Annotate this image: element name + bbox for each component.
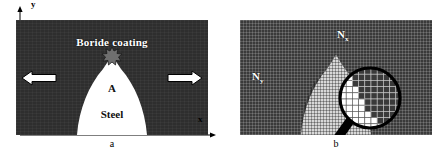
mesh-cell	[371, 99, 377, 105]
mesh-cell	[383, 80, 389, 86]
axis-x-arrow-icon	[210, 132, 216, 137]
mesh-cell	[352, 74, 358, 80]
mesh-cell	[396, 118, 402, 124]
mesh-cell	[383, 93, 389, 99]
mesh-cell	[371, 74, 377, 80]
star-defect-icon	[101, 46, 123, 66]
axis-y-arrow-icon	[17, 6, 22, 12]
panel-b-caption: b	[224, 138, 448, 149]
mesh-cell	[396, 74, 402, 80]
mesh-cell	[359, 93, 365, 99]
mesh-cell	[359, 111, 365, 117]
mesh-cell	[371, 111, 377, 117]
mesh-cell	[377, 118, 383, 124]
mesh-cell	[377, 111, 383, 117]
mesh-cell	[346, 93, 352, 99]
mesh-cell	[365, 74, 371, 80]
mesh-cell	[359, 74, 365, 80]
mesh-cell	[390, 124, 396, 130]
mesh-cell	[390, 105, 396, 111]
mesh-cell	[396, 68, 402, 74]
mesh-cell	[371, 80, 377, 86]
mesh-cell	[359, 118, 365, 124]
mesh-cell	[352, 80, 358, 86]
mesh-cell	[377, 74, 383, 80]
mesh-cell	[365, 111, 371, 117]
mesh-cell	[346, 99, 352, 105]
arrow-left-icon	[21, 69, 57, 87]
mesh-cell	[365, 118, 371, 124]
mesh-cell	[377, 93, 383, 99]
mesh-cell	[359, 80, 365, 86]
mesh-cell	[390, 99, 396, 105]
panel-a-caption: a	[0, 138, 224, 149]
panel-a: y Boride coating A Steel	[0, 0, 224, 163]
mesh-cell	[371, 118, 377, 124]
magnifier-icon	[326, 60, 418, 135]
mesh-cell	[359, 105, 365, 111]
mesh-cell	[352, 111, 358, 117]
panel-b: Nx Ny b	[224, 0, 448, 163]
mesh-cell	[390, 87, 396, 93]
mesh-cell	[359, 87, 365, 93]
mesh-cell	[383, 105, 389, 111]
mesh-cell	[365, 87, 371, 93]
mesh-cell	[352, 99, 358, 105]
mesh-nx-label: Nx	[337, 28, 348, 43]
mesh-cell	[377, 80, 383, 86]
mesh-cell	[377, 99, 383, 105]
mesh-diagram: Nx Ny	[240, 20, 432, 135]
mesh-cell	[383, 111, 389, 117]
mesh-cell	[359, 99, 365, 105]
mesh-cell	[352, 105, 358, 111]
mesh-cell	[371, 87, 377, 93]
mesh-cell	[371, 93, 377, 99]
mesh-cell	[377, 105, 383, 111]
mesh-cell	[365, 80, 371, 86]
axis-x-label: x	[198, 114, 203, 124]
boride-coating-label: Boride coating	[76, 36, 148, 48]
coating-substrate-diagram: Boride coating A Steel	[16, 20, 208, 135]
mesh-cell	[346, 80, 352, 86]
defect-point-label: A	[108, 82, 116, 94]
steel-label: Steel	[101, 108, 124, 120]
mesh-cell	[352, 87, 358, 93]
mesh-cell	[396, 124, 402, 130]
mesh-cell	[390, 68, 396, 74]
mesh-cell	[346, 105, 352, 111]
mesh-cell	[371, 105, 377, 111]
mesh-cell	[365, 93, 371, 99]
mesh-cell	[346, 87, 352, 93]
figure-container: y Boride coating A Steel	[0, 0, 448, 163]
mesh-cell	[383, 87, 389, 93]
mesh-cell	[383, 99, 389, 105]
arrow-right-icon	[167, 69, 203, 87]
mesh-cell	[377, 87, 383, 93]
mesh-cell	[390, 93, 396, 99]
mesh-ny-label: Ny	[252, 70, 263, 85]
mesh-cell	[340, 68, 346, 74]
mesh-cell	[352, 93, 358, 99]
mesh-cell	[365, 105, 371, 111]
mesh-cell	[365, 99, 371, 105]
